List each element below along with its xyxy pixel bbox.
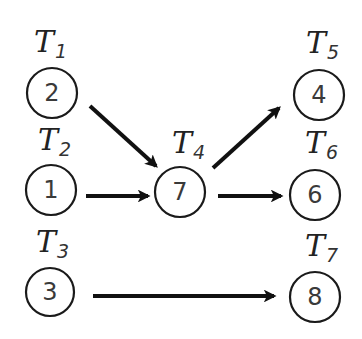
node-label-sub: 5 <box>327 41 339 63</box>
node-t5: T5 4 <box>294 25 344 120</box>
node-value: 4 <box>311 81 326 109</box>
node-value: 3 <box>42 278 57 306</box>
node-value: 1 <box>43 176 58 204</box>
task-graph-diagram: T1 2 T2 1 T3 3 T4 7 T5 4 T6 6 T7 8 <box>0 0 362 339</box>
svg-text:T4: T4 <box>172 125 205 163</box>
node-value: 7 <box>172 178 187 206</box>
node-label: T <box>38 122 60 157</box>
edge-t1-t4 <box>90 106 156 166</box>
node-value: 2 <box>44 79 59 107</box>
svg-text:T1: T1 <box>34 24 67 62</box>
node-t2: T2 1 <box>26 122 76 215</box>
node-t7: T7 8 <box>290 228 340 322</box>
node-t6: T6 6 <box>290 125 340 220</box>
node-value: 8 <box>307 283 322 311</box>
svg-text:T3: T3 <box>36 224 69 262</box>
node-t3: T3 3 <box>26 224 74 316</box>
edge-t4-t5 <box>213 108 279 168</box>
node-value: 6 <box>307 181 322 209</box>
node-label: T <box>305 125 327 160</box>
node-label-sub: 3 <box>57 240 69 262</box>
node-label: T <box>36 224 58 259</box>
node-label-sub: 6 <box>326 141 338 163</box>
node-label: T <box>34 24 56 59</box>
svg-text:T2: T2 <box>38 122 71 160</box>
svg-text:T5: T5 <box>306 25 339 63</box>
svg-text:T7: T7 <box>305 228 338 266</box>
node-t4: T4 7 <box>155 125 205 217</box>
node-t1: T1 2 <box>27 24 77 118</box>
svg-text:T6: T6 <box>305 125 338 163</box>
node-label: T <box>305 228 327 263</box>
node-label: T <box>306 25 328 60</box>
node-label: T <box>172 125 194 160</box>
node-label-sub: 2 <box>59 138 71 160</box>
node-label-sub: 7 <box>326 244 338 266</box>
node-label-sub: 4 <box>193 141 205 163</box>
node-label-sub: 1 <box>55 40 67 62</box>
